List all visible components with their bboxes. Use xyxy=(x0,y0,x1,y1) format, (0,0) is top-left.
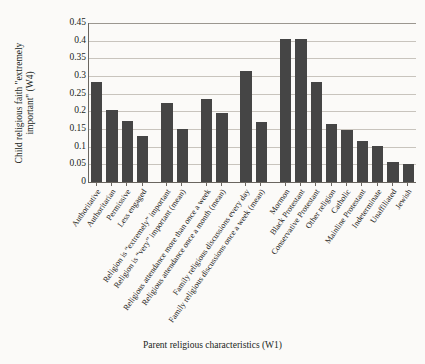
bar[interactable] xyxy=(137,136,148,182)
y-axis-tick-label: 0 xyxy=(81,177,86,187)
group-gap xyxy=(190,23,199,182)
bar[interactable] xyxy=(256,122,267,182)
bar[interactable] xyxy=(387,162,398,182)
group-gap xyxy=(150,23,159,182)
bar[interactable] xyxy=(403,164,414,182)
y-axis-title-line1: Child religious faith "extremely xyxy=(14,43,24,164)
y-axis-tick-label: 0.25 xyxy=(69,89,86,99)
bar[interactable] xyxy=(341,130,352,182)
bar[interactable] xyxy=(295,39,306,182)
bar[interactable] xyxy=(201,99,212,182)
bar[interactable] xyxy=(91,82,102,182)
group-gap xyxy=(269,23,278,182)
bar-slot xyxy=(175,23,190,182)
y-axis-tick-label: 0.1 xyxy=(74,142,86,152)
y-axis-tick-label: 0.3 xyxy=(74,71,86,81)
bar[interactable] xyxy=(280,39,291,182)
bar-slot xyxy=(199,23,214,182)
y-axis-tick-label: 0.45 xyxy=(69,18,86,28)
y-axis-tick-labels: 0.450.40.350.30.250.20.150.10.050 xyxy=(44,0,86,364)
bar-slot xyxy=(104,23,119,182)
bar[interactable] xyxy=(326,124,337,182)
bar-series xyxy=(89,23,416,182)
bar-slot xyxy=(401,23,416,182)
bar-slot xyxy=(370,23,385,182)
y-axis-tick-label: 0.05 xyxy=(69,160,86,170)
bar-slot xyxy=(89,23,104,182)
group-gap xyxy=(230,23,239,182)
bar-slot xyxy=(120,23,135,182)
y-axis-tick-label: 0.2 xyxy=(74,107,86,117)
bar-slot xyxy=(278,23,293,182)
y-axis-tick-label: 0.4 xyxy=(74,36,86,46)
label-slot: Family religious discussions once a week… xyxy=(253,186,268,326)
bar[interactable] xyxy=(240,71,251,182)
plot-area xyxy=(88,23,416,183)
bar-slot xyxy=(214,23,229,182)
bar-slot xyxy=(293,23,308,182)
bar[interactable] xyxy=(177,129,188,182)
bar[interactable] xyxy=(161,103,172,182)
bar-slot xyxy=(324,23,339,182)
y-axis-title: Child religious faith "extremely importa… xyxy=(12,18,38,188)
bar-slot xyxy=(254,23,269,182)
bar-slot xyxy=(309,23,324,182)
label-slot: Jewish xyxy=(400,186,415,326)
bar-slot xyxy=(339,23,354,182)
bar-slot xyxy=(239,23,254,182)
bar-slot xyxy=(135,23,150,182)
bar[interactable] xyxy=(311,82,322,182)
bar-slot xyxy=(385,23,400,182)
bar[interactable] xyxy=(216,113,227,182)
y-axis-tick-label: 0.15 xyxy=(69,124,86,134)
bar-slot xyxy=(355,23,370,182)
x-axis-tick-labels: AuthoritativeAuthoritarianPermissiveLess… xyxy=(88,186,415,326)
bar[interactable] xyxy=(357,141,368,182)
x-axis-title: Parent religious characteristics (W1) xyxy=(0,340,425,350)
bar[interactable] xyxy=(122,121,133,182)
bar-chart: Child religious faith "extremely importa… xyxy=(0,0,425,364)
bar-slot xyxy=(159,23,174,182)
y-axis-title-line2: important" (W4) xyxy=(25,43,36,164)
bar[interactable] xyxy=(106,110,117,182)
y-axis-tick-label: 0.35 xyxy=(69,54,86,64)
bar[interactable] xyxy=(372,146,383,182)
